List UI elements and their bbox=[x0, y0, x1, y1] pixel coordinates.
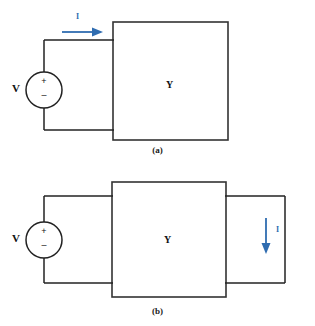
current-label-a: I bbox=[76, 12, 79, 21]
circuit-diagram-a: V + – Y I (a) bbox=[0, 0, 315, 163]
current-arrow-b bbox=[262, 218, 271, 254]
network-label-b: Y bbox=[164, 234, 171, 245]
caption-b: (b) bbox=[0, 306, 315, 316]
voltage-label-b: V bbox=[12, 232, 20, 244]
minus-sign-a: – bbox=[39, 90, 49, 100]
plus-sign-a: + bbox=[39, 76, 49, 86]
current-arrow-a bbox=[62, 28, 103, 37]
voltage-label-a: V bbox=[12, 82, 20, 94]
caption-a: (a) bbox=[0, 145, 315, 155]
network-label-a: Y bbox=[166, 79, 173, 90]
plus-sign-b: + bbox=[39, 226, 49, 236]
current-label-b: I bbox=[276, 225, 279, 234]
minus-sign-b: – bbox=[39, 240, 49, 250]
circuit-diagram-b: V + – Y I (b) bbox=[0, 163, 315, 326]
